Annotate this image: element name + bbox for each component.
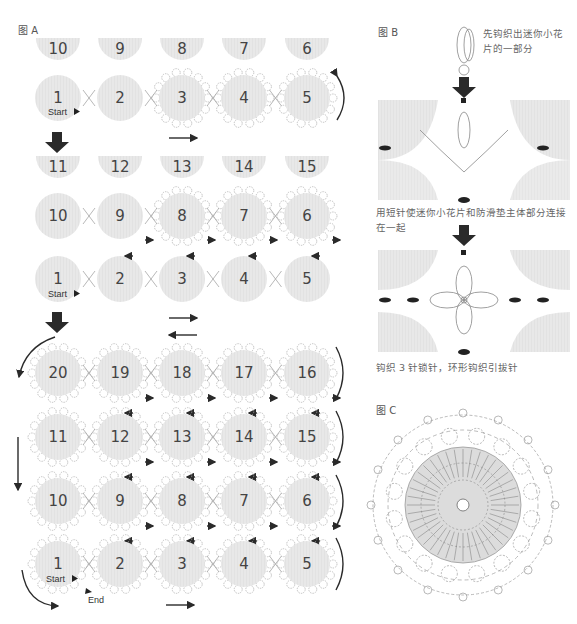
motif-number: 5 [302, 270, 312, 288]
start-label: Start [46, 574, 66, 584]
motif-number: 2 [115, 555, 125, 573]
half-motif: 13 [160, 156, 204, 178]
end-arrow-icon [85, 588, 92, 594]
svg-text:12: 12 [110, 158, 129, 176]
motif-number: 16 [297, 364, 316, 382]
half-motif: 9 [98, 38, 142, 60]
diagram-canvas: 109876 12345Start 1112131415 10987612345… [0, 0, 577, 624]
motif: 4 [221, 256, 267, 302]
motif-number: 15 [297, 428, 316, 446]
half-motif: 14 [222, 156, 266, 178]
motif-number: 6 [302, 207, 312, 225]
half-motif: 10 [36, 38, 80, 60]
mini-flower-icon [430, 266, 498, 334]
svg-text:14: 14 [234, 158, 253, 176]
motif: 6 [277, 187, 337, 246]
figure-a-stage-3: 2019181716111213141510987612345StartEnd [18, 337, 343, 606]
motif-number: 19 [110, 364, 129, 382]
motif-number: 8 [177, 492, 187, 510]
motif: 3 [152, 535, 212, 594]
half-motif: 8 [160, 38, 204, 60]
down-arrow-icon [452, 77, 476, 98]
down-arrow-icon [452, 225, 476, 246]
half-motif: 11 [36, 156, 80, 178]
half-motif: 15 [285, 156, 329, 178]
motif: 2 [97, 256, 143, 302]
half-motif: 7 [222, 38, 266, 60]
motif: 7 [214, 187, 274, 246]
motif: 4 [214, 535, 274, 594]
motif: 14 [214, 408, 274, 467]
motif: 5 [277, 535, 337, 594]
half-motif: 12 [98, 156, 142, 178]
motif-number: 17 [234, 364, 253, 382]
figure-a-stage-2: 1112131415 10987612345Start [35, 156, 340, 335]
motif-number: 3 [177, 270, 187, 288]
motif-number: 14 [234, 428, 253, 446]
motif-number: 4 [239, 270, 249, 288]
motif-number: 8 [177, 207, 187, 225]
motif-number: 11 [48, 428, 67, 446]
motif: 7 [214, 472, 274, 531]
motif-number: 10 [48, 492, 67, 510]
mini-petal-icon [457, 27, 474, 75]
motif-number: 3 [177, 89, 187, 107]
motif: 20 [28, 344, 88, 403]
motif-number: 3 [177, 555, 187, 573]
motif: 8 [152, 187, 212, 246]
motif: 19 [90, 344, 150, 403]
motif: 4 [214, 69, 274, 128]
motif: 10 [35, 193, 81, 239]
half-motif: 6 [285, 38, 329, 60]
down-arrow-icon [45, 312, 69, 333]
motif: 16 [277, 344, 337, 403]
motif-number: 1 [53, 555, 63, 573]
motif-number: 10 [48, 207, 67, 225]
figure-a-stage-1: 109876 12345Start [35, 38, 344, 138]
motif: 9 [97, 193, 143, 239]
motif: 11 [28, 408, 88, 467]
motif-number: 1 [53, 270, 63, 288]
svg-text:8: 8 [177, 40, 187, 58]
motif-number: 7 [239, 207, 249, 225]
motif: 9 [90, 472, 150, 531]
motif: 17 [214, 344, 274, 403]
end-label: End [88, 595, 104, 605]
motif-number: 4 [239, 89, 249, 107]
svg-text:7: 7 [239, 40, 249, 58]
motif: 3 [159, 256, 205, 302]
motif-number: 13 [172, 428, 191, 446]
motif: 10 [28, 472, 88, 531]
motif-number: 5 [302, 89, 312, 107]
motif: 1 [28, 535, 88, 594]
motif: 8 [152, 472, 212, 531]
motif: 2 [90, 535, 150, 594]
svg-text:15: 15 [297, 158, 316, 176]
motif-number: 4 [239, 555, 249, 573]
motif: 13 [152, 408, 212, 467]
figure-b-diagram [378, 27, 570, 355]
svg-text:6: 6 [302, 40, 312, 58]
figure-c-diagram [367, 409, 559, 601]
motif-number: 2 [115, 270, 125, 288]
motif: 3 [152, 69, 212, 128]
motif-number: 6 [302, 492, 312, 510]
motif: 18 [152, 344, 212, 403]
svg-text:13: 13 [172, 158, 191, 176]
motif-number: 7 [239, 492, 249, 510]
svg-text:11: 11 [48, 158, 67, 176]
motif: 5 [284, 256, 330, 302]
motif-number: 1 [53, 89, 63, 107]
motif-number: 9 [115, 492, 125, 510]
motif-number: 9 [115, 207, 125, 225]
motif: 2 [97, 75, 143, 121]
svg-text:10: 10 [48, 40, 67, 58]
motif-number: 20 [48, 364, 67, 382]
motif: 12 [90, 408, 150, 467]
motif-number: 18 [172, 364, 191, 382]
motif-number: 12 [110, 428, 129, 446]
svg-text:9: 9 [115, 40, 125, 58]
start-label: Start [48, 289, 68, 299]
down-arrow-icon [45, 132, 69, 153]
start-label: Start [48, 107, 68, 117]
